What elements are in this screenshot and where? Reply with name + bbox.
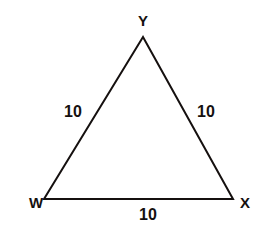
side-length-label-wx: 10 bbox=[139, 207, 157, 223]
geometry-figure: Y W X 10 10 10 bbox=[0, 0, 268, 238]
side-length-label-wy: 10 bbox=[64, 104, 82, 120]
vertex-label-y: Y bbox=[138, 13, 148, 28]
vertex-label-w: W bbox=[29, 195, 43, 210]
side-length-label-yx: 10 bbox=[197, 104, 215, 120]
vertex-label-x: X bbox=[240, 195, 250, 210]
